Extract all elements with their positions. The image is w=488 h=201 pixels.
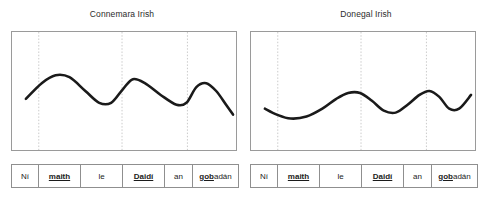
gloss-cell: maith [39,165,81,187]
gloss-cell: gobadán [432,165,477,187]
gloss-cell: Daidí [123,165,165,187]
gloss-cell: Ní [12,165,39,187]
stressed-syllable: maith [288,172,309,181]
panel-title-donegal: Donegal Irish [244,9,488,19]
gloss-row-connemara: NímaithleDaidíangobadán [11,164,239,188]
gloss-cell: Ní [251,165,278,187]
stressed-syllable: Daidí [373,172,393,181]
gloss-cell: le [81,165,123,187]
gloss-word: Ní [260,172,268,181]
pitch-contour-chart-donegal [251,32,475,150]
stressed-syllable: Daidí [134,172,154,181]
panel-connemara: Connemara Irish NímaithleDaidíangobadán [0,0,244,201]
gloss-word: le [98,172,104,181]
unstressed-syllable: adán [214,172,232,181]
stressed-syllable: gob [199,172,214,181]
gloss-cell: maith [278,165,320,187]
stressed-syllable: gob [438,172,453,181]
panel-donegal: Donegal Irish NímaithleDaidíangobadán [244,0,488,201]
chart-area-donegal [250,31,476,151]
pitch-contour-figure: Connemara Irish NímaithleDaidíangobadán … [0,0,488,201]
stressed-syllable: maith [49,172,70,181]
gloss-word: an [174,172,183,181]
gloss-word: le [337,172,343,181]
unstressed-syllable: adán [453,172,471,181]
chart-area-connemara [11,31,237,151]
gridlines-connemara [39,32,188,150]
pitch-contour-line-donegal [265,91,471,119]
gloss-row-donegal: NímaithleDaidíangobadán [250,164,478,188]
gloss-cell: Daidí [362,165,404,187]
panel-title-connemara: Connemara Irish [0,9,244,19]
gloss-word: an [413,172,422,181]
pitch-contour-line-connemara [26,75,233,115]
gloss-word: Ní [21,172,29,181]
gloss-cell: an [404,165,432,187]
gloss-cell: an [165,165,193,187]
pitch-contour-chart-connemara [12,32,236,150]
gloss-cell: le [320,165,362,187]
gloss-cell: gobadán [193,165,238,187]
